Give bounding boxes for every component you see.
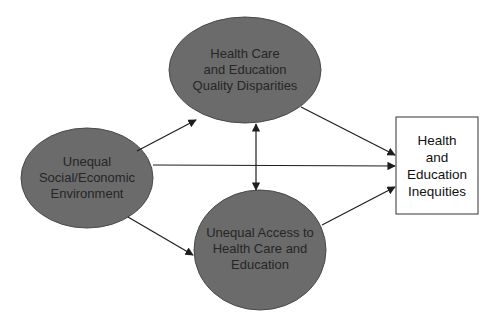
label-line: and Education [203,62,286,78]
label-line: Health [417,132,456,149]
label-quality-disparities: Health Care and Education Quality Dispar… [169,43,321,97]
label-unequal-access: Unequal Access to Health Care and Educat… [194,221,326,277]
arrow-quality-to-inequities [301,107,395,155]
arrow-social-to-access [128,217,193,255]
arrow-social-to-quality [137,120,196,151]
label-line: and [426,149,449,166]
label-line: Social/Economic [39,170,135,186]
label-line: Environment [51,186,124,202]
label-health-education-inequities: Health and Education Inequities [396,117,478,214]
label-line: Health Care and [213,241,308,257]
label-line: Education [231,257,289,273]
arrow-access-to-inequities [322,187,395,225]
label-line: Education [407,166,467,183]
label-line: Unequal Access to [206,225,314,241]
label-line: Quality Disparities [193,78,298,94]
label-line: Unequal [63,154,111,170]
label-line: Health Care [210,46,279,62]
label-social-economic-environment: Unequal Social/Economic Environment [21,150,153,206]
label-line: Inequities [408,183,466,200]
arrow-social-to-inequities [153,165,395,166]
